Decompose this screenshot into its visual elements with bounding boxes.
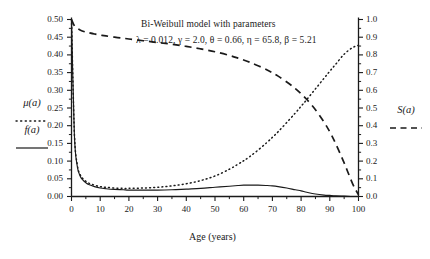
curves-group bbox=[72, 20, 359, 197]
y-right-tick-0.7: 0.7 bbox=[366, 68, 377, 77]
y-left-tick-0.25: 0.25 bbox=[30, 104, 63, 113]
y-left-tick-0.05: 0.05 bbox=[30, 174, 63, 183]
legend-swatch-dashed bbox=[389, 116, 423, 121]
y-left-tick-0.30: 0.30 bbox=[30, 86, 63, 95]
y-left-tick-0.15: 0.15 bbox=[30, 139, 63, 148]
y-left-tick-0.00: 0.00 bbox=[30, 192, 63, 201]
x-tick-100: 100 bbox=[339, 205, 379, 214]
y-right-tick-0.8: 0.8 bbox=[366, 50, 377, 59]
curve-dashed bbox=[72, 20, 359, 195]
y-left-tick-0.50: 0.50 bbox=[30, 15, 63, 24]
y-right-tick-0.6: 0.6 bbox=[366, 86, 377, 95]
chart-subtitle: λ = 0.012, γ = 2.0, θ = 0.66, η = 65.8, … bbox=[136, 36, 317, 46]
legend-right: S(a) bbox=[383, 104, 429, 121]
y-right-tick-0.0: 0.0 bbox=[366, 192, 377, 201]
y-right-tick-0.5: 0.5 bbox=[366, 104, 377, 113]
chart-figure: Bi-Weibull model with parameters λ = 0.0… bbox=[0, 0, 430, 259]
y-left-tick-0.35: 0.35 bbox=[30, 68, 63, 77]
x-axis-title: Age (years) bbox=[189, 232, 236, 242]
y-right-tick-0.3: 0.3 bbox=[366, 139, 377, 148]
y-left-tick-0.45: 0.45 bbox=[30, 33, 63, 42]
y-left-tick-0.20: 0.20 bbox=[30, 121, 63, 130]
y-right-tick-0.4: 0.4 bbox=[366, 121, 377, 130]
y-right-tick-0.1: 0.1 bbox=[366, 174, 377, 183]
curve-solid bbox=[72, 20, 359, 197]
legend-label-s: S(a) bbox=[383, 104, 429, 115]
y-left-tick-0.10: 0.10 bbox=[30, 157, 63, 166]
chart-title: Bi-Weibull model with parameters bbox=[141, 20, 276, 30]
y-left-tick-0.40: 0.40 bbox=[30, 50, 63, 59]
y-right-tick-0.2: 0.2 bbox=[366, 157, 377, 166]
y-right-tick-1.0: 1.0 bbox=[366, 15, 377, 24]
y-right-tick-0.9: 0.9 bbox=[366, 33, 377, 42]
